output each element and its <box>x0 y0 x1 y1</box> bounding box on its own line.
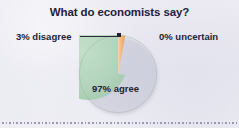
pie-slice-disagree <box>118 35 125 74</box>
page-title: What do economists say? <box>0 6 239 18</box>
leader-dot-disagree <box>117 33 121 37</box>
pie-label-disagree: 3% disagree <box>16 31 71 42</box>
leader-line-disagree <box>80 36 120 37</box>
pie-chart <box>79 35 157 113</box>
bottom-divider <box>2 122 237 124</box>
chart-figure: What do economists say? <box>0 0 239 128</box>
pie-slices <box>79 35 157 113</box>
pie-label-agree: 97% agree <box>92 83 139 94</box>
pie-label-uncertain: 0% uncertain <box>159 31 218 42</box>
